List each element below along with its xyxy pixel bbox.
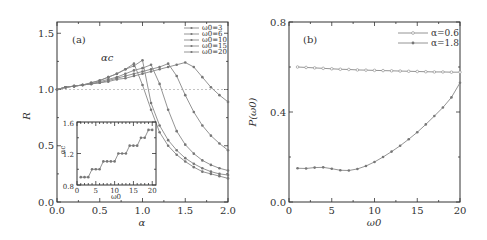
legend-marker xyxy=(412,42,415,45)
series-omega-4-marker xyxy=(158,68,161,71)
x-tick-label: 15 xyxy=(411,205,424,216)
y-tick-label: 0.5 xyxy=(38,140,54,151)
series-omega-2-marker xyxy=(227,169,230,172)
series-omega-1-marker xyxy=(167,139,170,142)
inset-x-label: ω0 xyxy=(111,193,121,201)
inset-series-marker xyxy=(151,129,154,132)
inset-series-marker xyxy=(121,152,124,155)
x-tick-label: 10 xyxy=(368,205,381,216)
plot-frame xyxy=(289,22,460,202)
x-tick-label: 20 xyxy=(454,205,467,216)
series-omega-0-marker xyxy=(141,84,144,87)
series-omega-3-marker xyxy=(124,75,127,78)
series-omega-4-marker xyxy=(124,77,127,80)
series-alpha-1-marker xyxy=(330,167,333,170)
inset-series-marker xyxy=(102,160,105,163)
legend-marker xyxy=(190,39,192,41)
series-omega-1-marker xyxy=(141,59,144,62)
series-omega-0-marker xyxy=(158,131,161,134)
series-alpha-0-marker xyxy=(399,70,402,73)
series-omega-4-marker xyxy=(184,61,187,64)
series-omega-0-marker xyxy=(133,62,136,65)
y-tick-label: 1.5 xyxy=(38,28,54,39)
series-omega-4-marker xyxy=(56,88,59,91)
panel-a-chart: 0.00.51.01.52.00.00.51.01.5(a)αcαRω0=3ω0… xyxy=(21,22,236,228)
x-tick-label: 15 xyxy=(129,187,138,195)
series-alpha-0-marker xyxy=(305,66,308,69)
legend-entry: α=1.8 xyxy=(431,38,459,48)
inset-chart: 051015200.81.21.6ω0αc xyxy=(59,120,157,202)
series-alpha-1-line xyxy=(298,83,460,171)
inset-series-marker xyxy=(106,160,109,163)
series-omega-0-marker xyxy=(175,153,178,156)
inset-series-marker xyxy=(98,168,101,171)
series-omega-3-marker xyxy=(167,62,170,65)
series-omega-3-marker xyxy=(210,134,213,137)
series-omega-3-marker xyxy=(158,66,161,69)
series-alpha-1-marker xyxy=(390,150,393,153)
inset-series-marker xyxy=(147,129,150,132)
series-alpha-1-marker xyxy=(459,81,462,84)
legend: α=0.6α=1.8 xyxy=(398,28,459,48)
series-alpha-1-marker xyxy=(322,166,325,169)
inset-y-label: αc xyxy=(59,146,67,155)
series-alpha-0-marker xyxy=(407,70,410,73)
series-omega-2-marker xyxy=(210,164,213,167)
series-alpha-1-marker xyxy=(382,156,385,159)
inset-series-marker xyxy=(125,152,128,155)
legend-marker xyxy=(190,51,192,53)
y-tick-label: 0.0 xyxy=(38,197,54,208)
series-omega-4-marker xyxy=(116,78,119,81)
y-tick-label: 0.0 xyxy=(270,197,286,208)
y-tick-label: 0.8 xyxy=(63,183,74,191)
inset-series-marker xyxy=(95,168,98,171)
series-alpha-1-marker xyxy=(356,168,359,171)
series-alpha-0-marker xyxy=(390,70,393,73)
y-tick-label: 0.8 xyxy=(270,17,286,28)
series-alpha-0-marker xyxy=(365,69,368,72)
series-omega-3-marker xyxy=(227,149,230,152)
series-alpha-0-marker xyxy=(330,68,333,71)
series-omega-0-marker xyxy=(227,177,230,180)
series-alpha-0-marker xyxy=(416,70,419,73)
inset-series-marker xyxy=(79,176,82,179)
series-omega-2-marker xyxy=(193,152,196,155)
series-alpha-1-marker xyxy=(425,123,428,126)
x-tick-label: 1.5 xyxy=(177,205,193,216)
series-omega-4-marker xyxy=(175,63,178,66)
series-alpha-1-marker xyxy=(442,106,445,109)
x-tick-label: 1.0 xyxy=(135,205,151,216)
series-omega-2-marker xyxy=(201,159,204,162)
series-alpha-0-marker xyxy=(450,71,453,74)
series-alpha-0-marker xyxy=(425,70,428,73)
series-omega-3-marker xyxy=(175,75,178,78)
x-tick-label: 0 xyxy=(75,187,79,195)
series-omega-3-marker xyxy=(218,142,221,145)
series-omega-4-marker xyxy=(107,80,110,83)
series-omega-4-marker xyxy=(167,66,170,69)
series-omega-1-marker xyxy=(227,174,230,177)
inset-series-marker xyxy=(143,136,146,139)
inset-series-marker xyxy=(128,144,131,147)
y-axis-label: P(ω0) xyxy=(247,97,258,127)
series-omega-4-marker xyxy=(210,86,213,89)
panel-b-chart: 051015200.00.40.8(b)ω0P(ω0)α=0.6α=1.8 xyxy=(247,17,466,229)
legend-marker xyxy=(190,27,192,29)
series-omega-2-marker xyxy=(167,108,170,111)
series-omega-1-marker xyxy=(210,170,213,173)
series-omega-2-marker xyxy=(175,130,178,133)
legend-marker xyxy=(190,33,192,35)
series-alpha-0-marker xyxy=(459,71,462,74)
series-alpha-0-marker xyxy=(356,69,359,72)
series-omega-1-marker xyxy=(124,68,127,71)
inset-series-marker xyxy=(110,160,113,163)
series-alpha-1-marker xyxy=(407,138,410,141)
series-alpha-0-marker xyxy=(339,68,342,71)
series-omega-1-marker xyxy=(116,72,119,75)
series-alpha-0-marker xyxy=(348,68,351,71)
series-omega-0-marker xyxy=(201,170,204,173)
series-omega-4-marker xyxy=(227,101,230,104)
series-alpha-1-marker xyxy=(416,131,419,134)
x-tick-label: 0 xyxy=(286,205,292,216)
series-omega-4-marker xyxy=(141,72,144,75)
